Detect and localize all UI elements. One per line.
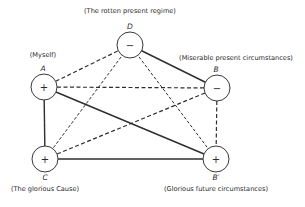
- node-a-letter: A: [39, 64, 45, 73]
- node-c-sign: +: [41, 154, 49, 165]
- node-d-caption: (The rotten present regime): [84, 7, 176, 15]
- node-c: + C (The glorious Cause): [11, 146, 79, 193]
- edge-a-d: [44, 45, 130, 87]
- balance-diagram: (The rotten present regime) D − (Myself)…: [0, 0, 305, 207]
- node-d-sign: −: [126, 40, 134, 51]
- edges-group: [44, 45, 217, 159]
- node-a-sign: +: [40, 82, 48, 93]
- node-b-prime: + B′ (Glorious future circumstances): [164, 146, 268, 193]
- node-a: (Myself) A +: [30, 51, 57, 100]
- node-a-caption: (Myself): [30, 51, 56, 59]
- node-b-caption: (Miserable present circumstances): [179, 54, 293, 62]
- edge-d-b-prime: [130, 45, 216, 159]
- node-d-letter: D: [127, 22, 133, 31]
- node-b-sign: −: [213, 83, 221, 94]
- edge-a-b: [44, 87, 217, 88]
- node-c-caption: (The glorious Cause): [11, 185, 79, 193]
- node-b-prime-caption: (Glorious future circumstances): [164, 185, 268, 193]
- node-b-prime-sign: +: [212, 154, 220, 165]
- node-b-prime-letter: B′: [213, 173, 220, 182]
- node-c-letter: C: [42, 173, 48, 182]
- node-d: (The rotten present regime) D −: [84, 7, 176, 58]
- edge-d-b: [130, 45, 217, 88]
- node-b-letter: B: [213, 65, 218, 74]
